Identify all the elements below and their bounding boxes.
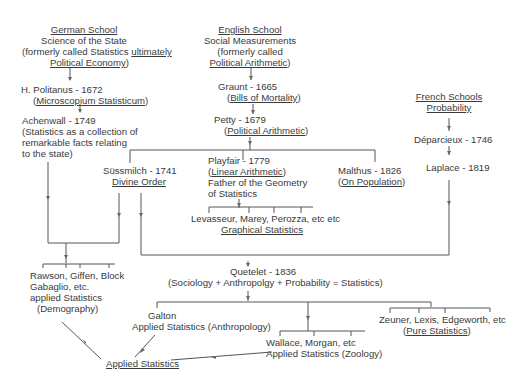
paren-close: ) bbox=[402, 176, 405, 187]
petty-work-title: Political Arithmetic bbox=[227, 125, 305, 136]
wallace-names: Wallace, Morgan, etc bbox=[266, 337, 356, 349]
english-school-subtitle: Social Measurements bbox=[200, 35, 300, 47]
english-school-block: English School bbox=[200, 24, 300, 36]
sussmilch-name: Süssmilch - 1741 bbox=[103, 165, 177, 177]
quetelet-name: Quetelet - 1836 bbox=[230, 266, 296, 278]
malthus-work: (On Population) bbox=[338, 176, 405, 188]
paren-close: ) bbox=[126, 57, 129, 68]
politanus-work: (Microscopium Statisticum) bbox=[33, 95, 148, 107]
paren-close: ) bbox=[297, 92, 300, 103]
linear-arithmetic: Linear Arithmetic bbox=[211, 166, 282, 177]
french-school-title: French Schools bbox=[416, 91, 483, 102]
graunt-name: Graunt - 1665 bbox=[218, 81, 277, 93]
zeuner-field: (Pure Statistics) bbox=[403, 325, 471, 337]
note-text: (formerly called Statistics bbox=[22, 46, 131, 57]
rawson-l1: Rawson, Giffen, Block bbox=[30, 270, 124, 282]
paren-close: ) bbox=[283, 166, 286, 177]
french-school-subtitle: Probability bbox=[409, 102, 489, 114]
paren-close: ) bbox=[305, 125, 308, 136]
playfair-name: Playfair - 1779 bbox=[208, 155, 270, 167]
laplace-name: Laplace - 1819 bbox=[426, 162, 489, 174]
german-school-block: German School bbox=[34, 24, 134, 36]
politanus-work-title: Microscopium Statisticum bbox=[36, 95, 145, 106]
divine-order: Divine Order bbox=[112, 176, 166, 187]
achenwall-l2: remarkable facts relating bbox=[22, 137, 127, 149]
german-school-title: German School bbox=[51, 24, 118, 35]
german-school-note-2: Political Economy) bbox=[50, 57, 129, 69]
english-school-title: English School bbox=[218, 24, 281, 35]
playfair-work: (Linear Arithmetic) bbox=[208, 166, 286, 178]
note-underlined: ultimately bbox=[131, 46, 172, 57]
rawson-l4: (Demography) bbox=[37, 303, 98, 315]
political-arithmetic: Political Arithmetic bbox=[209, 57, 287, 68]
history-of-statistics-diagram: German School Science of the State (form… bbox=[0, 0, 510, 386]
english-school-note: (formerly called bbox=[200, 46, 300, 58]
playfair-l3: Father of the Geometry bbox=[208, 177, 307, 189]
french-school-block: French Schools bbox=[409, 91, 489, 103]
german-school-subtitle: Science of the State bbox=[34, 35, 134, 47]
sussmilch-work: Divine Order bbox=[112, 176, 166, 188]
applied-statistics-label: Applied Statistics bbox=[106, 358, 179, 369]
achenwall-l1: (Statistics as a collection of bbox=[22, 126, 138, 138]
political-economy: Political Economy bbox=[50, 57, 126, 68]
paren-close: ) bbox=[145, 95, 148, 106]
zeuner-names: Zeuner, Lexis, Edgeworth, etc bbox=[379, 314, 506, 326]
applied-statistics: Applied Statistics bbox=[106, 358, 179, 370]
levasseur-names: Levasseur, Marey, Perozza, etc etc bbox=[191, 213, 340, 225]
rawson-l3: applied Statistics bbox=[30, 292, 102, 304]
english-school-note-2: Political Arithmetic) bbox=[200, 57, 300, 69]
quetelet-formula: (Sociology + Anthropolgy + Probability =… bbox=[168, 277, 383, 289]
graunt-work: (Bills of Mortality) bbox=[227, 92, 301, 104]
galton-name: Galton bbox=[148, 310, 176, 322]
paren-close: ) bbox=[468, 325, 471, 336]
achenwall-l3: to the state) bbox=[22, 148, 73, 160]
probability: Probability bbox=[427, 102, 472, 113]
politanus-name: H. Politanus - 1672 bbox=[21, 84, 103, 96]
paren-close: ) bbox=[287, 57, 290, 68]
deparcieux-name: Déparcieux - 1746 bbox=[414, 134, 492, 146]
levasseur-field: Graphical Statistics bbox=[221, 224, 303, 236]
on-population: On Population bbox=[341, 176, 402, 187]
achenwall-name: Achenwall - 1749 bbox=[22, 115, 96, 127]
petty-name: Petty - 1679 bbox=[214, 114, 266, 126]
graunt-work-title: Bills of Mortality bbox=[230, 92, 297, 103]
petty-work: (Political Arithmetic) bbox=[224, 125, 308, 137]
playfair-l4: of Statistics bbox=[208, 188, 257, 200]
german-school-note: (formerly called Statistics ultimately bbox=[22, 46, 172, 58]
graphical-statistics: Graphical Statistics bbox=[221, 224, 303, 235]
rawson-l2: Gabaglio, etc. bbox=[30, 281, 89, 293]
wallace-field: Applied Statistics (Zoology) bbox=[266, 348, 382, 360]
galton-field: Applied Statistics (Anthropology) bbox=[132, 321, 271, 333]
malthus-name: Malthus - 1826 bbox=[338, 165, 401, 177]
pure-statistics: Pure Statistics bbox=[406, 325, 467, 336]
